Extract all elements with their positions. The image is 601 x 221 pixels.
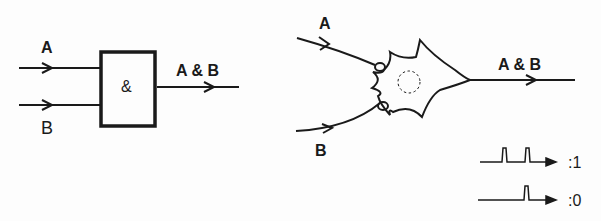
signal-one-pulse — [478, 186, 552, 200]
signal-1-label: :1 — [568, 155, 581, 171]
and-gate-neuron-diagram: A B & A & B A B A & B :1 :0 — [0, 0, 601, 221]
signal-legend — [478, 148, 556, 204]
neuron-output-label: A & B — [498, 57, 541, 73]
dendrite-a — [297, 38, 375, 65]
neuron — [296, 37, 575, 133]
nucleus — [398, 71, 420, 93]
signal-two-pulses — [480, 148, 552, 162]
dendrite-b — [296, 103, 380, 131]
gate-output-label: A & B — [176, 63, 219, 79]
signal-0-label: :0 — [568, 193, 581, 209]
signal-0-arrow-icon — [546, 196, 556, 204]
neuron-input-b-label: B — [315, 143, 327, 159]
cell-body — [372, 40, 575, 117]
neuron-input-a-label: A — [319, 16, 331, 32]
gate-input-b-label: B — [41, 120, 53, 136]
gate-symbol: & — [121, 79, 132, 95]
diagram-drawing — [0, 0, 601, 221]
gate-input-a-label: A — [41, 40, 53, 56]
signal-1-arrow-icon — [546, 158, 556, 166]
